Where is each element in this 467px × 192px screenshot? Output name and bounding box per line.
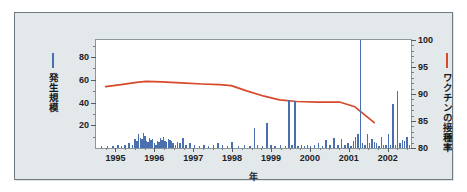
y-axis-left-minor-tick <box>93 91 96 92</box>
y-axis-right-minor-tick <box>411 51 414 52</box>
bar <box>217 143 218 148</box>
bar <box>333 138 334 148</box>
y-axis-right-tick-label: 95 <box>418 62 428 72</box>
y-axis-right-minor-tick <box>411 56 414 57</box>
bar <box>374 142 375 148</box>
x-axis-minor-tick <box>242 148 243 150</box>
bar <box>238 146 239 148</box>
bar <box>314 145 315 148</box>
y-axis-left-minor-tick <box>93 114 96 115</box>
bar <box>121 146 122 148</box>
x-axis-minor-tick <box>106 148 107 150</box>
bar <box>381 137 382 148</box>
y-axis-left-tick <box>91 80 96 81</box>
x-axis-minor-tick <box>164 148 165 150</box>
bar <box>404 141 405 148</box>
bar <box>392 104 393 148</box>
x-axis-minor-tick <box>359 148 360 150</box>
x-axis-minor-tick <box>339 148 340 150</box>
y-axis-right-minor-tick <box>411 72 414 73</box>
bar <box>179 143 180 148</box>
y-axis-right-tick <box>411 40 416 41</box>
bar <box>254 128 255 148</box>
y-axis-right-minor-tick <box>411 116 414 117</box>
bar <box>112 146 113 148</box>
y-axis-right-minor-tick <box>411 99 414 100</box>
plot-area: 2040608080859095100199519961997199819992… <box>95 39 412 149</box>
bar <box>399 143 400 148</box>
y-axis-left-tick <box>91 103 96 104</box>
y-axis-right-minor-tick <box>411 62 414 63</box>
chart-figure: 発生規模 ワクチンの接種率 20406080808590951001995199… <box>0 0 467 192</box>
bar <box>350 146 351 148</box>
x-axis-tick-label: 2000 <box>300 153 320 163</box>
bar <box>189 143 190 148</box>
x-axis-minor-tick <box>222 148 223 150</box>
x-axis-minor-tick <box>368 148 369 150</box>
bar <box>357 134 358 148</box>
x-axis-minor-tick <box>329 148 330 150</box>
bar <box>383 145 384 148</box>
y-axis-left-tick-label: 40 <box>79 98 89 108</box>
y-axis-right-minor-tick <box>411 78 414 79</box>
x-axis-tick-label: 1998 <box>222 153 242 163</box>
x-axis-minor-tick <box>174 148 175 150</box>
x-axis-minor-tick <box>378 148 379 150</box>
bar <box>344 145 345 148</box>
bar <box>266 123 267 148</box>
y-axis-left-tick-label: 20 <box>79 120 89 130</box>
x-axis-tick <box>115 148 116 152</box>
y-axis-left-tick <box>91 125 96 126</box>
x-axis-tick-label: 1997 <box>183 153 203 163</box>
bar <box>297 146 298 148</box>
y-axis-left-minor-tick <box>93 46 96 47</box>
y-axis-right-minor-tick <box>411 110 414 111</box>
x-axis-minor-tick <box>261 148 262 150</box>
y-axis-left-minor-tick <box>93 68 96 69</box>
x-axis-minor-tick <box>300 148 301 150</box>
bar <box>353 141 354 148</box>
x-axis-tick <box>271 148 272 152</box>
bar <box>132 145 133 148</box>
bar <box>371 139 372 148</box>
y-axis-left-tick <box>91 57 96 58</box>
bar <box>101 146 102 148</box>
y-axis-right-tick-label: 85 <box>418 116 428 126</box>
x-axis-tick-label: 2001 <box>339 153 359 163</box>
bar <box>341 139 342 148</box>
x-axis-minor-tick <box>213 148 214 150</box>
y-axis-right-tick <box>411 94 416 95</box>
x-axis-minor-tick <box>252 148 253 150</box>
bar <box>409 145 410 148</box>
y-axis-right-minor-tick <box>411 126 414 127</box>
bar <box>128 143 129 148</box>
bar <box>117 145 118 148</box>
x-axis-minor-tick <box>145 148 146 150</box>
bar <box>395 145 396 148</box>
x-axis-tick <box>349 148 350 152</box>
bar <box>385 145 386 148</box>
y-axis-right-tick-label: 80 <box>418 143 428 153</box>
x-axis-title: 年 <box>95 170 412 183</box>
plot-inner <box>96 40 411 148</box>
bar <box>257 145 258 148</box>
bar <box>274 146 275 148</box>
bar <box>397 91 398 148</box>
bar <box>107 146 108 148</box>
y-axis-left-minor-tick <box>93 137 96 138</box>
y-axis-right-minor-tick <box>411 143 414 144</box>
x-axis-minor-tick <box>397 148 398 150</box>
x-axis-tick-label: 1999 <box>261 153 281 163</box>
y-axis-left-tick-label: 80 <box>79 52 89 62</box>
bar <box>134 139 135 148</box>
y-axis-left-tick-label: 60 <box>79 75 89 85</box>
x-axis-minor-tick <box>125 148 126 150</box>
bar <box>402 140 403 148</box>
x-axis-tick-label: 2002 <box>378 153 398 163</box>
legend-left-marker-icon <box>52 53 54 68</box>
x-axis-tick-label: 1996 <box>144 153 164 163</box>
x-axis-minor-tick <box>281 148 282 150</box>
bar <box>208 146 209 148</box>
y-axis-right-minor-tick <box>411 89 414 90</box>
y-axis-right-minor-tick <box>411 83 414 84</box>
